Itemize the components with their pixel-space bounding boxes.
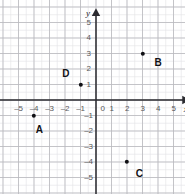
point-label-b: B bbox=[154, 58, 161, 68]
x-tick-label-2: 2 bbox=[125, 105, 129, 113]
y-tick-label--2: –2 bbox=[84, 127, 93, 135]
y-tick-label-5: 5 bbox=[86, 19, 90, 27]
y-tick-label--3: –3 bbox=[84, 143, 93, 151]
coordinate-plane-figure: –5–4–3–2–112345–5–4–3–2–1123450xy ABCD bbox=[0, 0, 185, 194]
axis-lines bbox=[0, 8, 185, 194]
x-tick-label-4: 4 bbox=[156, 105, 160, 113]
x-tick-label--2: –2 bbox=[61, 105, 70, 113]
y-tick-label--4: –4 bbox=[84, 158, 93, 166]
x-tick-label--5: –5 bbox=[14, 105, 23, 113]
y-tick-label-1: 1 bbox=[86, 81, 90, 89]
y-axis-label: y bbox=[86, 8, 90, 17]
x-tick-label-5: 5 bbox=[171, 105, 175, 113]
y-tick-label-2: 2 bbox=[86, 65, 90, 73]
y-tick-label--1: –1 bbox=[84, 112, 93, 120]
x-tick-label--3: –3 bbox=[45, 105, 54, 113]
x-tick-label-3: 3 bbox=[140, 105, 144, 113]
x-axis-label: x bbox=[184, 105, 185, 114]
y-tick-label-4: 4 bbox=[86, 34, 90, 42]
origin-tick-label: 0 bbox=[100, 105, 104, 113]
point-label-a: A bbox=[36, 125, 43, 135]
x-tick-label-1: 1 bbox=[109, 105, 113, 113]
x-tick-label--4: –4 bbox=[30, 105, 39, 113]
y-tick-label--5: –5 bbox=[84, 174, 93, 182]
point-label-c: C bbox=[136, 169, 143, 179]
y-tick-label-3: 3 bbox=[86, 50, 90, 58]
point-label-d: D bbox=[62, 69, 69, 79]
